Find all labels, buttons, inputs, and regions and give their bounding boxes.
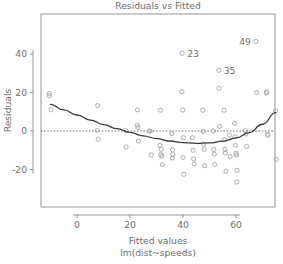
data-point <box>227 133 231 137</box>
data-point <box>233 121 237 125</box>
data-point <box>217 68 221 72</box>
data-point <box>212 147 216 151</box>
data-point <box>203 164 207 168</box>
plot-canvas: 020406040200-20233549Residuals vs Fitted… <box>0 0 283 264</box>
chart-title: Residuals vs Fitted <box>115 0 201 11</box>
data-point <box>190 136 194 140</box>
data-point <box>124 145 128 149</box>
data-point <box>136 139 140 143</box>
data-point <box>222 108 226 112</box>
data-point <box>245 144 249 148</box>
data-point <box>95 128 99 132</box>
data-point <box>135 108 139 112</box>
y-tick-label: -20 <box>12 164 27 175</box>
x-tick-label: 40 <box>177 219 189 230</box>
x-axis-subtitle: lm(dist~speeds) <box>120 247 196 258</box>
x-axis-title: Fitted values <box>129 235 188 246</box>
data-point <box>160 163 164 167</box>
data-point <box>255 90 259 94</box>
data-point <box>235 180 239 184</box>
data-point <box>235 168 239 172</box>
data-point <box>217 124 221 128</box>
outlier-labels: 233549 <box>187 36 251 76</box>
data-point <box>181 155 185 159</box>
data-point <box>180 51 184 55</box>
y-tick-label: 0 <box>21 125 27 136</box>
data-point <box>181 136 185 140</box>
data-point <box>254 39 258 43</box>
data-point <box>96 103 100 107</box>
data-point <box>180 90 184 94</box>
data-point <box>182 172 186 176</box>
y-axis-title: Residuals <box>2 88 13 132</box>
data-point <box>212 152 216 156</box>
data-point <box>192 157 196 161</box>
data-point <box>170 131 174 135</box>
y-tick-label: 20 <box>15 87 27 98</box>
data-point <box>159 147 163 151</box>
x-tick-label: 0 <box>74 219 80 230</box>
data-point <box>191 148 195 152</box>
data-point <box>170 148 174 152</box>
y-axis: 40200-20 <box>12 48 33 175</box>
residual-plot-figure: 020406040200-20233549Residuals vs Fitted… <box>0 0 283 264</box>
data-point <box>49 108 53 112</box>
y-tick-label: 40 <box>15 48 27 59</box>
data-point <box>233 143 237 147</box>
outlier-label: 49 <box>239 36 251 47</box>
scatter-points <box>47 39 278 184</box>
outlier-label: 23 <box>187 48 199 59</box>
lowess-smooth-curve <box>51 104 276 143</box>
data-point <box>201 108 205 112</box>
data-point <box>202 147 206 151</box>
data-point <box>149 153 153 157</box>
x-tick-label: 20 <box>124 219 136 230</box>
x-tick-label: 60 <box>230 219 242 230</box>
x-axis: 0204060 <box>73 215 242 230</box>
data-point <box>158 108 162 112</box>
data-point <box>224 169 228 173</box>
data-point <box>96 137 100 141</box>
outlier-label: 35 <box>224 65 236 76</box>
data-point <box>213 162 217 166</box>
data-point <box>192 162 196 166</box>
data-point <box>217 86 221 90</box>
data-point <box>228 154 232 158</box>
data-point <box>181 108 185 112</box>
